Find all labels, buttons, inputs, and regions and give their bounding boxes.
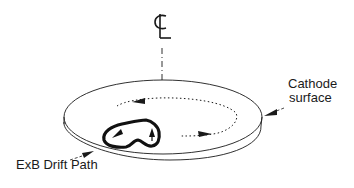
diagram-canvas: Cathode surface ExB Drift Path — [0, 0, 354, 188]
cathode-surface-label: Cathode surface — [288, 77, 337, 105]
cathode-label-line2: surface — [289, 91, 337, 105]
cathode-disc-surface — [64, 80, 262, 154]
cathode-label-line1: Cathode — [288, 77, 337, 91]
cathode-arrow-icon — [264, 109, 277, 116]
exb-drift-path-label: ExB Drift Path — [16, 158, 98, 172]
centerline-symbol-icon — [155, 14, 171, 38]
cathode-leader — [264, 108, 284, 116]
